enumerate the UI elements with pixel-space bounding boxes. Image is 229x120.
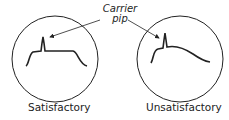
carrier-pip-callout: Carrier pip — [100, 4, 140, 24]
satisfactory-waveform — [26, 37, 87, 66]
diagram: Carrier pip Satisfactory Unsatisfactory — [0, 0, 229, 120]
unsatisfactory-waveform — [151, 33, 210, 63]
unsatisfactory-scope-circle — [137, 16, 223, 102]
satisfactory-caption: Satisfactory — [28, 101, 91, 113]
unsatisfactory-caption: Unsatisfactory — [146, 101, 222, 113]
callout-line2: pip — [100, 14, 140, 24]
callout-arrow-left — [50, 20, 100, 37]
satisfactory-scope-circle — [12, 16, 98, 102]
